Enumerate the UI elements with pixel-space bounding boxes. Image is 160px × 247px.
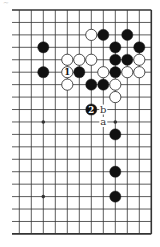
black-stone xyxy=(74,67,85,78)
point-label-b: b xyxy=(100,104,106,115)
white-stone-1: 1 xyxy=(62,67,73,78)
point-labels: ba xyxy=(99,104,107,127)
black-stone xyxy=(98,79,109,90)
black-stone-2: 2 xyxy=(86,104,97,115)
hoshi-point xyxy=(114,120,118,124)
black-stone xyxy=(110,129,121,140)
move-number: 2 xyxy=(88,105,94,115)
move-number: 1 xyxy=(64,67,70,77)
black-stone xyxy=(98,29,109,40)
hoshi-point xyxy=(42,120,46,124)
white-stone xyxy=(110,91,121,102)
white-stone xyxy=(86,29,97,40)
black-stone xyxy=(122,54,133,65)
go-board: 12 ba xyxy=(0,0,160,247)
black-stone xyxy=(110,67,121,78)
black-stone xyxy=(122,29,133,40)
black-stone xyxy=(86,79,97,90)
black-stone xyxy=(38,67,49,78)
grid-lines xyxy=(12,10,151,234)
black-stone xyxy=(38,42,49,53)
hoshi-point xyxy=(42,195,46,199)
white-stone xyxy=(62,54,73,65)
white-stone xyxy=(122,67,133,78)
black-stone xyxy=(110,191,121,202)
white-stone xyxy=(98,67,109,78)
point-label-a: a xyxy=(100,116,106,127)
white-stone xyxy=(62,79,73,90)
white-stone xyxy=(134,67,145,78)
black-stone xyxy=(110,42,121,53)
black-stone xyxy=(134,42,145,53)
white-stone xyxy=(74,54,85,65)
black-stone xyxy=(110,54,121,65)
white-stone xyxy=(134,54,145,65)
black-stone xyxy=(110,166,121,177)
white-stone xyxy=(86,54,97,65)
white-stone xyxy=(110,79,121,90)
